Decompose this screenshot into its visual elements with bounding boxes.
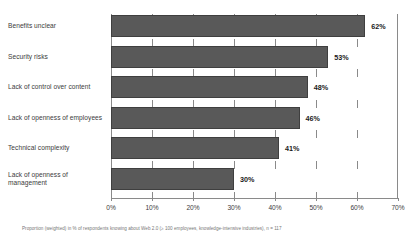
x-axis-tick-mark (357, 198, 358, 201)
footnote: Proportion (weighted) in % of respondent… (22, 226, 412, 232)
x-axis-line (111, 198, 398, 199)
bar-value-label: 41% (285, 144, 299, 153)
category-label: Technical complexity (8, 144, 104, 152)
bar-row: Lack of control over content48% (0, 75, 420, 99)
x-axis-tick-label: 0% (106, 204, 116, 211)
category-label: Benefits unclear (8, 22, 104, 30)
bar-row: Benefits unclear62% (0, 14, 420, 38)
x-axis-tick-mark (111, 198, 112, 201)
x-axis-tick-mark (152, 198, 153, 201)
x-axis-tick-label: 70% (391, 204, 404, 211)
x-axis-tick-label: 50% (309, 204, 322, 211)
x-axis-tick-label: 20% (186, 204, 199, 211)
x-axis-tick-label: 60% (350, 204, 363, 211)
x-axis-tick-mark (316, 198, 317, 201)
bar-value-label: 30% (240, 175, 254, 184)
bar-value-label: 46% (306, 113, 320, 122)
bar (111, 46, 328, 68)
bar-value-label: 48% (314, 83, 328, 92)
x-axis-tick-label: 30% (227, 204, 240, 211)
bar-value-label: 62% (371, 22, 385, 31)
bar (111, 76, 308, 98)
x-axis-tick-mark (193, 198, 194, 201)
bar (111, 107, 300, 129)
category-label: Security risks (8, 52, 104, 60)
bar (111, 137, 279, 159)
x-axis-tick-label: 10% (145, 204, 158, 211)
x-axis-tick-label: 40% (268, 204, 281, 211)
bar (111, 168, 234, 190)
category-label: Lack of openness of employees (8, 114, 104, 122)
bar-chart: Benefits unclear62%Security risks53%Lack… (0, 0, 420, 246)
bar-row: Lack of openness of employees46% (0, 106, 420, 130)
bar-value-label: 53% (334, 52, 348, 61)
bar (111, 15, 365, 37)
category-label: Lack of openness of management (8, 171, 104, 188)
x-axis-tick-mark (398, 198, 399, 201)
bar-row: Technical complexity41% (0, 136, 420, 160)
bar-row: Lack of openness of management30% (0, 167, 420, 191)
category-label: Lack of control over content (8, 83, 104, 91)
bar-row: Security risks53% (0, 45, 420, 69)
x-axis-tick-mark (234, 198, 235, 201)
x-axis-tick-mark (275, 198, 276, 201)
